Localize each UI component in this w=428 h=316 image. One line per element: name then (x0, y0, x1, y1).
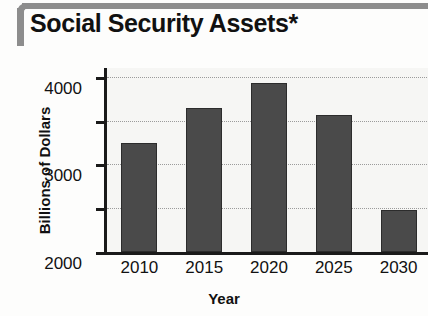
y-axis-tick-label: 3000 (44, 166, 82, 186)
x-axis-tick-label: 2020 (250, 258, 288, 278)
y-axis-tick: 2000 (96, 164, 107, 167)
x-axis-title: Year (104, 290, 344, 307)
gridline (107, 77, 428, 78)
x-axis-tick-label: 2025 (315, 258, 353, 278)
plot-inner: 0100020003000400020102015202020252030 (107, 68, 428, 252)
chart-figure: Social Security Assets* Billions of Doll… (0, 0, 428, 316)
y-axis-tick: 0 (96, 252, 107, 255)
bar (381, 210, 417, 252)
chart-title: Social Security Assets* (30, 9, 298, 38)
y-axis-tick: 4000 (96, 77, 107, 80)
plot-area: 0100020003000400020102015202020252030 (104, 68, 428, 255)
y-axis-tick-label: 4000 (44, 79, 82, 99)
bar (186, 108, 222, 252)
bar (316, 115, 352, 252)
y-axis-tick: 1000 (96, 208, 107, 211)
x-axis-tick-label: 2010 (120, 258, 158, 278)
y-axis-tick-label: 2000 (44, 254, 82, 274)
frame-corner-icon (17, 3, 30, 16)
bar (121, 143, 157, 252)
x-axis-tick-label: 2015 (185, 258, 223, 278)
bar (251, 83, 287, 252)
y-axis-tick: 3000 (96, 121, 107, 124)
x-axis-tick-label: 2030 (380, 258, 418, 278)
